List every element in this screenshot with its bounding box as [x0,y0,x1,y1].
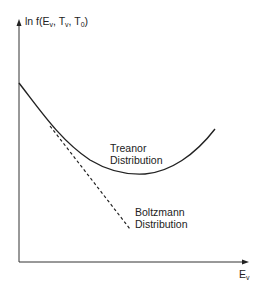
x-axis-arrow-icon [242,260,249,265]
treanor-label-line1: Treanor [110,142,163,154]
y-axis-label: ln f(Ev, Tv, T0) [25,15,88,31]
x-label-text: E [239,268,246,280]
y-label-text: ) [85,15,89,27]
boltzmann-label: Boltzmann Distribution [135,206,188,230]
y-label-text: , T [53,15,65,27]
x-axis-label: Ev [239,268,250,284]
boltzmann-label-line2: Distribution [135,218,188,230]
boltzmann-label-line1: Boltzmann [135,206,188,218]
y-label-text: , T [69,15,81,27]
x-label-sub: v [246,274,250,281]
y-label-text: ln f(E [25,15,50,27]
treanor-label-line2: Distribution [110,154,163,166]
treanor-label: Treanor Distribution [110,142,163,166]
y-axis-arrow-icon [17,19,22,26]
